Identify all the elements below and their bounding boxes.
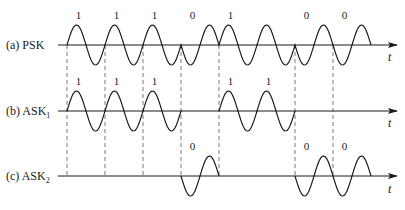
ask2-bit-labels: 000 [190,140,348,152]
row-ask1: (b) ASK1 t 11111 [6,75,397,131]
bit-label: 1 [114,9,120,21]
bit-label: 1 [228,9,234,21]
psk-label: (a) PSK [6,38,45,52]
ask2-label: (c) ASK2 [6,169,50,185]
psk-bit-labels: 1110100 [76,9,348,21]
bit-label: 0 [304,140,310,152]
psk-t-label: t [388,50,392,64]
bit-label: 1 [266,75,272,87]
modulation-diagram: (a) PSK t 1110100 (b) ASK1 t 11111 (c) A… [0,0,405,210]
bit-label: 0 [190,140,196,152]
bit-label: 0 [342,140,348,152]
bit-label: 1 [228,75,234,87]
bit-label: 1 [76,75,82,87]
bit-label: 0 [304,9,310,21]
row-psk: (a) PSK t 1110100 [6,9,397,65]
ask1-t-label: t [388,116,392,130]
bit-label: 1 [152,9,158,21]
row-ask2: (c) ASK2 t 000 [6,140,397,196]
bit-label: 0 [190,9,196,21]
ask2-t-label: t [388,182,392,196]
bit-label: 0 [342,9,348,21]
bit-label: 1 [114,75,120,87]
bit-label: 1 [76,9,82,21]
bit-label: 1 [152,75,158,87]
ask1-label: (b) ASK1 [6,104,50,120]
